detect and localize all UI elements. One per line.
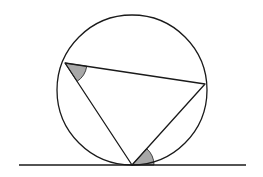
geometry-diagram [0,0,263,177]
background [0,0,263,177]
